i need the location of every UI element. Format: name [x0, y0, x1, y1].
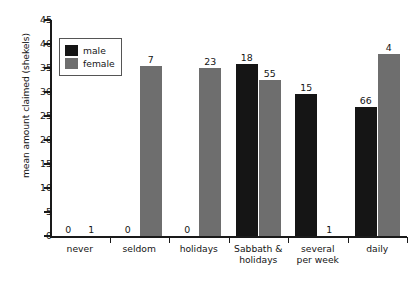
- bar-chart: mean amount claimed (shekels) 0510152025…: [0, 0, 413, 281]
- y-axis-tick-label: 45: [12, 14, 52, 25]
- x-axis-category-label: holidays: [169, 243, 229, 254]
- y-axis-tick-label: 40: [12, 38, 52, 49]
- bar-group: 023: [169, 20, 229, 236]
- bar-value-label: 1: [74, 224, 108, 235]
- bar-value-label: 55: [253, 68, 287, 79]
- bar-female[interactable]: [259, 80, 281, 236]
- legend-swatch-male-icon: [65, 45, 78, 56]
- x-axis-category-line: daily: [348, 243, 408, 254]
- x-axis-category-line: holidays: [229, 254, 289, 265]
- x-axis-separator-tick: [110, 237, 111, 243]
- y-axis-tick-label: 10: [12, 182, 52, 193]
- y-axis-tick-label: 20: [12, 134, 52, 145]
- x-axis-category-line: Sabbath &: [229, 243, 289, 254]
- chart-legend: male female: [59, 38, 122, 76]
- x-axis-category-line: several: [288, 243, 348, 254]
- x-axis-separator-tick: [348, 237, 349, 243]
- x-axis-category-line: never: [50, 243, 110, 254]
- bar-group: 1855: [229, 20, 289, 236]
- bar-group: 664: [348, 20, 408, 236]
- bar-value-label: 15: [289, 82, 323, 93]
- y-axis-tick-label: 25: [12, 110, 52, 121]
- x-axis-separator-tick: [169, 237, 170, 243]
- legend-item-female: female: [65, 58, 116, 69]
- x-axis-category-label: severalper week: [288, 243, 348, 265]
- x-axis-end-tick: [407, 237, 408, 243]
- x-axis-category-line: holidays: [169, 243, 229, 254]
- y-axis-tick-label: 35: [12, 62, 52, 73]
- x-axis-category-label: daily: [348, 243, 408, 254]
- bar-male[interactable]: [295, 94, 317, 236]
- legend-swatch-female-icon: [65, 58, 78, 69]
- legend-label-male: male: [83, 45, 106, 56]
- x-axis-separator-tick: [229, 237, 230, 243]
- bar-male[interactable]: [236, 64, 258, 236]
- x-axis-category-label: Sabbath &holidays: [229, 243, 289, 265]
- bar-value-label: 7: [134, 54, 168, 65]
- bar-female[interactable]: [199, 68, 221, 236]
- bar-female[interactable]: [140, 66, 162, 236]
- bar-male[interactable]: [355, 107, 377, 236]
- legend-label-female: female: [83, 58, 115, 69]
- y-axis-tick-label: 15: [12, 158, 52, 169]
- bar-female[interactable]: [378, 54, 400, 236]
- y-axis-tick-label: 30: [12, 86, 52, 97]
- x-axis-category-line: seldom: [110, 243, 170, 254]
- x-axis-category-line: per week: [288, 254, 348, 265]
- x-axis-category-label: never: [50, 243, 110, 254]
- bar-value-label: 4: [372, 42, 406, 53]
- bar-value-label: 18: [230, 52, 264, 63]
- bar-value-label: 23: [193, 56, 227, 67]
- y-axis-ticks: 051015202530354045: [0, 0, 52, 281]
- bar-group: 151: [288, 20, 348, 236]
- x-axis-category-label: seldom: [110, 243, 170, 254]
- y-axis-tick-label: 5: [12, 206, 52, 217]
- legend-item-male: male: [65, 45, 116, 56]
- bar-value-label: 1: [312, 224, 346, 235]
- x-axis-separator-tick: [288, 237, 289, 243]
- y-axis-tick-label: 0: [12, 230, 52, 241]
